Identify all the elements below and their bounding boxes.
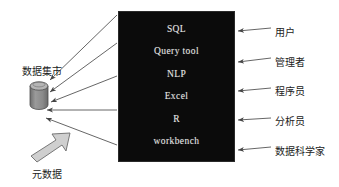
role-label-user: 用户 — [275, 24, 295, 39]
role-line-3 — [238, 118, 271, 120]
role-label-analyst: 分析员 — [275, 113, 305, 128]
metadata-label: 元数据 — [32, 166, 62, 181]
role-line-2 — [238, 88, 271, 91]
data-mart-cylinder — [30, 82, 48, 110]
role-label-programmer: 程序员 — [275, 83, 305, 98]
role-label-data-scientist: 数据科学家 — [275, 143, 325, 158]
role-leader-lines — [238, 28, 271, 150]
role-line-4 — [238, 147, 271, 150]
tool-item-r: R — [173, 115, 180, 125]
flow-arrows-to-data-mart — [46, 15, 117, 145]
tool-item-nlp: NLP — [167, 70, 186, 80]
role-line-0 — [238, 28, 271, 31]
tool-item-sql: SQL — [167, 25, 186, 35]
diagram-canvas: SQL Query tool NLP Excel R workbench 数据集… — [0, 0, 339, 187]
tools-box: SQL Query tool NLP Excel R workbench — [118, 11, 235, 162]
role-line-1 — [238, 58, 271, 62]
tool-item-workbench: workbench — [154, 137, 200, 147]
tool-item-excel: Excel — [165, 92, 189, 102]
flow-arrow-3 — [51, 76, 117, 102]
role-label-administrator: 管理者 — [275, 54, 305, 69]
tool-item-query-tool: Query tool — [154, 47, 199, 57]
metadata-block-arrow — [31, 133, 70, 162]
data-mart-label: 数据集市 — [22, 63, 62, 78]
